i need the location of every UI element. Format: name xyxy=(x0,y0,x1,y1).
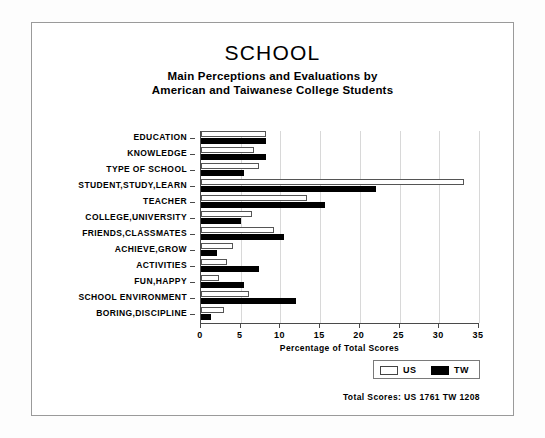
category-tick xyxy=(190,202,195,203)
category-tick xyxy=(190,170,195,171)
category-tick xyxy=(190,234,195,235)
x-axis-tick xyxy=(359,323,360,328)
bar-tw xyxy=(201,202,325,208)
bar-tw xyxy=(201,266,259,272)
x-axis-tick-label: 35 xyxy=(463,330,493,340)
chart-subtitle-line-1: Main Perceptions and Evaluations by xyxy=(31,69,514,83)
x-axis-tick xyxy=(478,323,479,328)
x-axis-tick-label: 0 xyxy=(185,330,215,340)
bar-tw xyxy=(201,186,376,192)
category-tick xyxy=(190,218,195,219)
category-tick xyxy=(190,138,195,139)
category-label: COLLEGE,UNIVERSITY xyxy=(85,212,187,222)
category-tick xyxy=(190,250,195,251)
category-tick xyxy=(190,266,195,267)
category-tick xyxy=(190,298,195,299)
category-label: BORING,DISCIPLINE xyxy=(96,308,187,318)
category-tick xyxy=(190,282,195,283)
bar-tw xyxy=(201,218,241,224)
category-label: ACTIVITIES xyxy=(136,260,187,270)
legend-swatch-us xyxy=(380,366,398,375)
x-axis-line xyxy=(200,323,479,324)
bar-tw xyxy=(201,250,217,256)
bar-tw xyxy=(201,282,244,288)
title-block: SCHOOL Main Perceptions and Evaluations … xyxy=(31,41,514,97)
chart-title: SCHOOL xyxy=(31,41,514,65)
x-axis-tick-label: 20 xyxy=(344,330,374,340)
category-label: KNOWLEDGE xyxy=(127,148,187,158)
category-label: STUDENT,STUDY,LEARN xyxy=(78,180,187,190)
bar-tw xyxy=(201,138,266,144)
category-axis-labels: EDUCATIONKNOWLEDGETYPE OF SCHOOLSTUDENT,… xyxy=(0,131,195,323)
bar-us xyxy=(201,275,219,281)
total-scores-annotation: Total Scores: US 1761 TW 1208 xyxy=(270,392,480,402)
legend-label-us: US xyxy=(403,365,417,375)
bar-us xyxy=(201,227,274,233)
category-tick xyxy=(190,186,195,187)
x-axis-tick-label: 10 xyxy=(264,330,294,340)
x-axis-tick xyxy=(279,323,280,328)
x-axis-tick-label: 5 xyxy=(225,330,255,340)
category-label: TEACHER xyxy=(143,196,187,206)
category-label: TYPE OF SCHOOL xyxy=(106,164,187,174)
category-label: EDUCATION xyxy=(134,132,188,142)
bar-us xyxy=(201,259,227,265)
category-label: SCHOOL ENVIRONMENT xyxy=(78,292,187,302)
category-label: ACHIEVE,GROW xyxy=(115,244,187,254)
bar-tw xyxy=(201,298,296,304)
category-tick xyxy=(190,154,195,155)
chart-subtitle-line-2: American and Taiwanese College Students xyxy=(31,83,514,97)
bar-tw xyxy=(201,154,266,160)
bar-us xyxy=(201,211,252,217)
x-axis-tick xyxy=(438,323,439,328)
x-axis-tick-label: 15 xyxy=(304,330,334,340)
bar-tw xyxy=(201,314,211,320)
bar-us xyxy=(201,179,464,185)
legend-item-tw: TW xyxy=(431,364,469,376)
bars-container xyxy=(201,131,521,323)
bar-us xyxy=(201,131,266,137)
bar-us xyxy=(201,163,259,169)
x-axis-tick-label: 25 xyxy=(384,330,414,340)
bar-tw xyxy=(201,234,284,240)
legend-label-tw: TW xyxy=(454,365,469,375)
chart-figure: SCHOOL Main Perceptions and Evaluations … xyxy=(0,0,545,438)
bar-us xyxy=(201,243,233,249)
bar-us xyxy=(201,307,224,313)
category-label: FRIENDS,CLASSMATES xyxy=(82,228,187,238)
x-axis-tick xyxy=(319,323,320,328)
x-axis-tick xyxy=(200,323,201,328)
category-label: FUN,HAPPY xyxy=(134,276,187,286)
x-axis-tick xyxy=(399,323,400,328)
legend-swatch-tw xyxy=(431,366,449,375)
x-axis-tick xyxy=(240,323,241,328)
bar-us xyxy=(201,291,249,297)
bar-us xyxy=(201,195,307,201)
bar-us xyxy=(201,147,254,153)
x-axis-tick-label: 30 xyxy=(423,330,453,340)
legend-item-us: US xyxy=(380,364,417,376)
category-tick xyxy=(190,314,195,315)
x-axis-label: Percentage of Total Scores xyxy=(200,343,479,353)
bar-tw xyxy=(201,170,244,176)
chart-legend: US TW xyxy=(373,360,480,379)
